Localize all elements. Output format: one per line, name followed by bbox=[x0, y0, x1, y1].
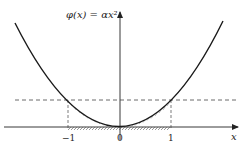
parabola-diagram: φ(x) = αx² x −1 0 1 bbox=[0, 0, 243, 145]
tick-label-1: 1 bbox=[168, 133, 174, 143]
parabola-curve bbox=[15, 21, 223, 127]
function-label: φ(x) = αx² bbox=[66, 9, 118, 20]
x-axis-label: x bbox=[231, 131, 237, 142]
tick-label-0: 0 bbox=[117, 133, 123, 143]
tick-label-neg1: −1 bbox=[62, 133, 75, 143]
